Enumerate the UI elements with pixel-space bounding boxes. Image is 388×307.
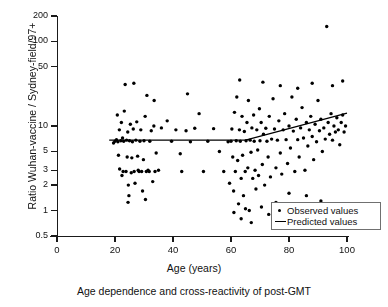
y-axis-line [57, 16, 58, 237]
legend-item-predicted[interactable]: Predicted values [274, 216, 377, 227]
legend-label-predicted: Predicted values [287, 216, 357, 227]
legend-marker-line-icon [274, 216, 287, 227]
y-tick-label: 1 [43, 206, 48, 215]
x-tick-label: 60 [211, 245, 251, 255]
x-tick-mark [56, 237, 57, 242]
y-tick-mark [51, 66, 57, 67]
x-axis-line [50, 236, 349, 237]
legend-item-observed[interactable]: Observed values [274, 205, 377, 216]
chart-legend: Observed values Predicted values [271, 202, 381, 230]
y-tick-mark [51, 125, 57, 126]
y-tick-label: 2 [43, 180, 48, 189]
y-tick-mark [51, 151, 57, 152]
y-tick-label: 5 [43, 146, 48, 155]
x-tick-label: 40 [153, 245, 193, 255]
y-tick-label: 0.5 [35, 231, 48, 240]
figure-caption: Age dependence and cross-reactivity of p… [0, 285, 388, 297]
x-tick-mark [288, 237, 289, 242]
x-axis-title: Age (years) [0, 262, 388, 274]
y-tick-mark [51, 15, 57, 16]
y-tick-mark [51, 210, 57, 211]
x-tick-label: 100 [327, 245, 367, 255]
x-tick-mark [230, 237, 231, 242]
y-tick-mark [51, 41, 57, 42]
y-tick-mark [51, 184, 57, 185]
chart-figure: 200100501053210.5 020406080100 Ratio Wuh… [0, 0, 388, 307]
y-tick-label: 3 [43, 165, 48, 174]
legend-label-observed: Observed values [287, 205, 358, 216]
x-tick-label: 0 [37, 245, 77, 255]
x-tick-mark [172, 237, 173, 242]
x-tick-label: 80 [269, 245, 309, 255]
y-tick-label: 50 [38, 62, 48, 71]
legend-marker-dot-icon [274, 205, 287, 216]
y-tick-mark [51, 170, 57, 171]
y-axis-title: Ratio Wuhan-vaccine / Sydney-field/97+ [26, 11, 38, 221]
x-tick-mark [114, 237, 115, 242]
x-tick-label: 20 [95, 245, 135, 255]
y-tick-label: 10 [38, 121, 48, 130]
x-tick-mark [346, 237, 347, 242]
